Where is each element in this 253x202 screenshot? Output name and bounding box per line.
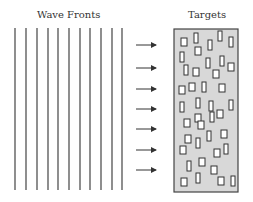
target [179,86,185,94]
target [208,40,212,50]
target [224,144,228,154]
target [180,102,184,112]
arrows [136,45,156,170]
target [221,130,227,138]
diagram-canvas [0,0,253,202]
target [214,149,220,157]
target [219,84,225,92]
target [231,176,235,186]
target [218,177,224,185]
target [213,70,219,78]
target [199,158,205,166]
target [211,166,217,174]
target [229,100,233,110]
target [196,173,200,183]
target [189,83,195,91]
target [207,131,211,141]
target [220,56,224,66]
target [196,98,200,108]
target [180,146,186,154]
target [193,68,199,76]
target [217,110,223,118]
wave-fronts [15,28,122,190]
target [209,101,213,111]
target [184,119,190,127]
target [185,135,191,143]
target [196,138,200,148]
target [198,121,204,129]
target [184,65,188,75]
target [194,33,198,43]
target [202,82,206,92]
target [187,161,191,171]
target-region [174,29,238,192]
target [228,63,234,71]
target [181,178,187,186]
target [206,58,210,68]
target [180,52,184,62]
target [181,38,187,46]
target [195,47,201,55]
target [229,37,233,47]
target [210,112,214,122]
target [218,31,222,41]
